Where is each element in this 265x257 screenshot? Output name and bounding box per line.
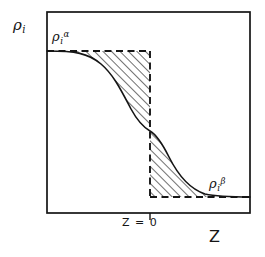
rho-alpha-superscript: α <box>63 29 69 39</box>
rho-alpha-label: ρiα <box>52 30 69 46</box>
rho-beta-label: ρiβ <box>209 177 225 193</box>
density-profile-figure: ρi ρiα ρiβ Z = 0 Z <box>0 0 265 257</box>
rho-beta-superscript: β <box>220 176 225 186</box>
origin-tick-label: Z = 0 <box>122 217 158 228</box>
rho-alpha-base: ρ <box>52 29 60 44</box>
rho-beta-base: ρ <box>209 176 217 191</box>
y-axis-label-subscript: i <box>22 24 26 35</box>
upper-excess-hatch-region <box>40 40 165 150</box>
y-axis-label-base: ρ <box>13 16 22 34</box>
y-axis-label: ρi <box>13 18 26 35</box>
x-axis-label: Z <box>209 229 220 245</box>
